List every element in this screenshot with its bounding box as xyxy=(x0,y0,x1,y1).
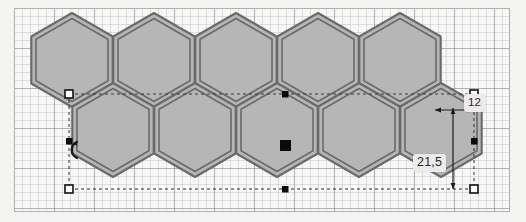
handle-bottom-left[interactable] xyxy=(65,185,73,193)
vector-artwork-layer[interactable] xyxy=(15,9,510,212)
handle-top-left[interactable] xyxy=(65,90,73,98)
handle-bottom-center[interactable] xyxy=(282,186,289,193)
dimension-arrow-height-bottom xyxy=(451,183,456,189)
handle-bottom-right[interactable] xyxy=(470,185,478,193)
handle-middle-right[interactable] xyxy=(471,138,478,145)
drawing-canvas[interactable]: 12 21,5 xyxy=(14,8,510,212)
dimension-label-height[interactable]: 21,5 xyxy=(413,154,446,172)
dimension-label-width[interactable]: 12 xyxy=(464,94,485,112)
center-origin-marker[interactable] xyxy=(280,140,291,151)
rotate-cursor-icon[interactable] xyxy=(67,140,81,160)
drawing-application-window: 12 21,5 xyxy=(0,0,526,222)
handle-top-center[interactable] xyxy=(282,91,289,98)
hexagon-row-top[interactable] xyxy=(31,13,440,107)
